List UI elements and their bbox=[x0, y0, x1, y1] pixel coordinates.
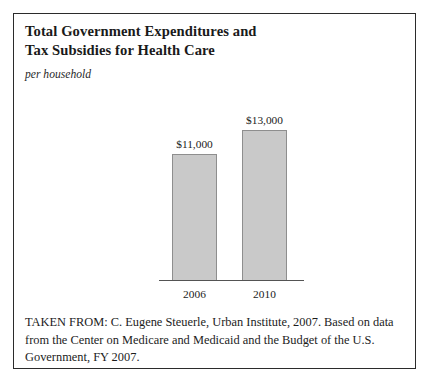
bar-rect-2006 bbox=[172, 154, 217, 281]
x-axis-baseline bbox=[159, 280, 304, 281]
bar-chart-plot-area: $11,000 2006 $13,000 2010 bbox=[14, 94, 416, 309]
figure-subtitle: per household bbox=[25, 68, 405, 82]
page-title-line-2: Tax Subsidies for Health Care bbox=[25, 41, 405, 60]
bar-group-2010: $13,000 2010 bbox=[242, 130, 287, 281]
source-attribution-text: TAKEN FROM: C. Eugene Steuerle, Urban In… bbox=[25, 314, 404, 367]
figure-header: Total Government Expenditures and Tax Su… bbox=[25, 22, 405, 82]
bar-tick-label-2006: 2006 bbox=[183, 288, 206, 300]
bar-value-label-2006: $11,000 bbox=[176, 138, 213, 150]
figure-source-block: TAKEN FROM: C. Eugene Steuerle, Urban In… bbox=[25, 314, 404, 367]
bar-group-2006: $11,000 2006 bbox=[172, 154, 217, 281]
bar-rect-2010 bbox=[242, 130, 287, 281]
figure-frame: Total Government Expenditures and Tax Su… bbox=[13, 13, 416, 369]
bar-value-label-2010: $13,000 bbox=[246, 114, 283, 126]
bar-tick-label-2010: 2010 bbox=[253, 288, 276, 300]
page-title-line-1: Total Government Expenditures and bbox=[25, 22, 405, 41]
